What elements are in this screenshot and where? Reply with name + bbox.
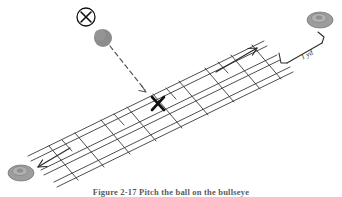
ladder-cell-tick	[166, 88, 176, 99]
ladder-direction-arrow-up	[216, 48, 257, 72]
gray-ball	[94, 29, 112, 47]
ladder-rung	[75, 133, 104, 167]
ladder-rung	[49, 146, 78, 180]
figure-illustration: 1 yd	[0, 0, 342, 197]
ladder-rung	[127, 107, 156, 141]
circled-x-thrower	[77, 8, 95, 26]
ladder-rail-lower-inner	[57, 72, 293, 187]
disc-marker-bottom-left	[8, 165, 34, 181]
dashed-trajectory-arrow	[110, 46, 146, 92]
ladder-rungs	[49, 45, 281, 180]
ladder-rung	[101, 120, 130, 154]
ladder-rung	[179, 81, 208, 115]
distance-label: 1 yd	[299, 48, 315, 62]
figure-container: 1 yd Figure 2-17 Pitch the ball on the b…	[0, 0, 342, 197]
ladder-rail-mid-inner	[44, 60, 280, 175]
ladder-rung	[153, 94, 182, 128]
ladder-rail-mid-outer	[41, 55, 277, 170]
distance-label-group: 1 yd	[299, 48, 315, 62]
agility-ladder	[28, 41, 293, 187]
disc-marker-top-right	[307, 12, 333, 28]
ladder-rail-upper-outer	[28, 41, 264, 156]
ladder-rail-lower-outer	[54, 67, 290, 182]
figure-caption: Figure 2-17 Pitch the ball on the bullse…	[0, 188, 342, 197]
